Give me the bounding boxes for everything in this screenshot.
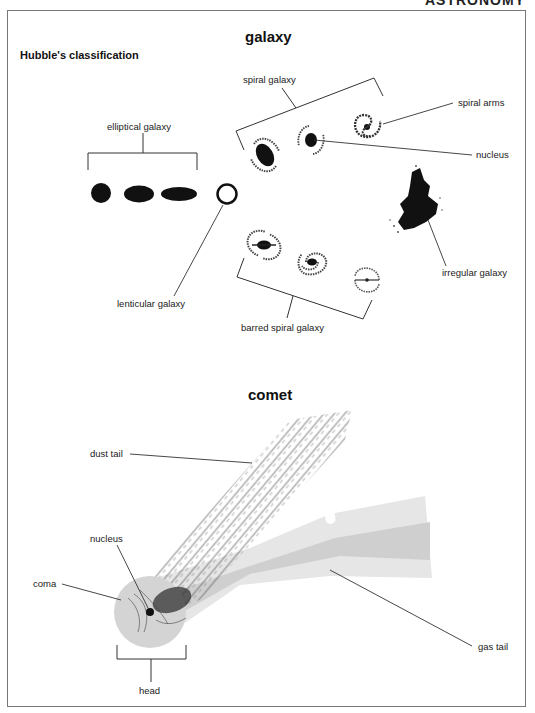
irregular-leader <box>428 220 446 266</box>
comet-nucleus-icon <box>146 608 154 616</box>
label-lenticular-galaxy: lenticular galaxy <box>117 298 185 309</box>
label-spiral-galaxy: spiral galaxy <box>243 74 296 85</box>
lenticular-leader <box>174 205 223 296</box>
elliptical-bracket <box>88 133 197 170</box>
comet-title: comet <box>248 386 292 403</box>
spiral-galaxy-sc-icon <box>355 115 380 137</box>
label-barred-spiral-galaxy: barred spiral galaxy <box>241 322 324 333</box>
label-comet-nucleus: nucleus <box>90 533 123 544</box>
label-head: head <box>139 685 160 696</box>
label-irregular-galaxy: irregular galaxy <box>442 267 507 278</box>
elliptical-galaxies <box>91 183 197 203</box>
label-elliptical-galaxy: elliptical galaxy <box>107 121 171 132</box>
spiral-galaxy-sa-icon <box>244 134 285 177</box>
elliptical-e6-icon <box>161 187 197 201</box>
barred-spiral-sba-icon <box>243 226 285 264</box>
barred-spiral-sbc-icon <box>355 268 379 292</box>
label-coma: coma <box>33 578 56 589</box>
hubble-classification-subtitle: Hubble's classification <box>20 49 139 61</box>
lenticular-galaxy-icon <box>218 185 237 204</box>
spiral-arms-leader <box>383 103 453 124</box>
elliptical-e3-icon <box>124 186 154 203</box>
barred-spiral-bracket <box>237 258 372 319</box>
label-galaxy-nucleus: nucleus <box>476 149 509 160</box>
barred-spiral-sbb-icon <box>299 253 327 274</box>
elliptical-e0-icon <box>91 183 111 203</box>
coma-leader <box>62 584 121 600</box>
dust-tail-leader <box>130 454 252 463</box>
label-spiral-arms: spiral arms <box>458 97 504 108</box>
head-bracket <box>117 645 186 682</box>
label-dust-tail: dust tail <box>90 448 123 459</box>
gas-tail-leader <box>330 570 472 646</box>
galaxy-nucleus-leader <box>314 140 472 155</box>
label-gas-tail: gas tail <box>478 641 508 652</box>
galaxy-title: galaxy <box>245 28 292 45</box>
irregular-galaxy-icon <box>389 165 443 233</box>
illustration <box>0 0 535 713</box>
spiral-galaxy-sb-icon <box>298 126 323 154</box>
